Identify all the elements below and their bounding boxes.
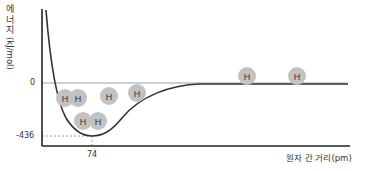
svg-text:H: H [134, 89, 141, 99]
svg-text:H: H [244, 72, 251, 82]
atom-pair-separated: H H [238, 67, 306, 85]
x-tick-bond-length: 74 [87, 150, 97, 159]
y-axis-label-korean: 에너지 [3, 4, 17, 36]
y-axis-label-unit: (kJ/mol) [4, 37, 15, 70]
energy-chart: H H H H H H H H [0, 0, 371, 171]
svg-text:H: H [62, 94, 69, 104]
y-axis-label: 에너지 (kJ/mol) [3, 4, 17, 69]
atom-pair-bonded: H H [74, 112, 107, 130]
svg-text:H: H [294, 72, 301, 82]
svg-text:H: H [106, 92, 113, 102]
svg-text:H: H [95, 117, 102, 127]
svg-text:H: H [80, 117, 87, 127]
svg-text:H: H [75, 94, 82, 104]
atom-pair-overlap: H H [56, 89, 87, 107]
y-tick-min-energy: -436 [16, 131, 34, 140]
y-tick-zero: 0 [30, 78, 35, 87]
x-axis-label: 원자 간 거리(pm) [286, 151, 352, 163]
